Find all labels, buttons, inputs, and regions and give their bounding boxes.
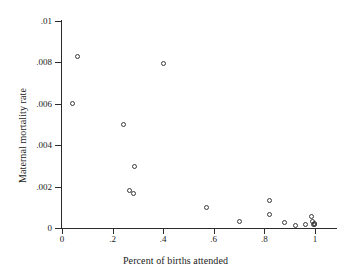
y-axis-title-wrap: Maternal mortality rate bbox=[8, 10, 22, 220]
x-axis-line bbox=[61, 228, 337, 229]
data-point bbox=[267, 198, 272, 203]
data-point bbox=[309, 214, 314, 219]
x-tick-label: .6 bbox=[199, 235, 229, 244]
y-tick bbox=[55, 21, 61, 22]
y-axis-title: Maternal mortality rate bbox=[17, 36, 28, 236]
y-tick-label: .01 bbox=[18, 17, 52, 26]
y-tick bbox=[55, 104, 61, 105]
y-tick bbox=[55, 228, 61, 229]
data-point bbox=[70, 101, 75, 106]
data-points-layer bbox=[62, 21, 325, 228]
data-point bbox=[267, 212, 272, 217]
x-tick-label: 0 bbox=[47, 235, 77, 244]
x-tick-label: .4 bbox=[148, 235, 178, 244]
data-point bbox=[132, 164, 137, 169]
data-point bbox=[161, 61, 166, 66]
y-tick bbox=[55, 145, 61, 146]
data-point bbox=[293, 223, 298, 228]
data-point bbox=[75, 54, 80, 59]
data-point bbox=[121, 122, 126, 127]
x-tick-label: 1 bbox=[300, 235, 330, 244]
y-tick bbox=[55, 62, 61, 63]
data-point bbox=[204, 205, 209, 210]
data-point bbox=[237, 219, 242, 224]
scan-artifact bbox=[307, 0, 337, 8]
x-axis-title: Percent of births attended bbox=[0, 255, 351, 266]
x-tick-label: .2 bbox=[98, 235, 128, 244]
x-tick-label: .8 bbox=[249, 235, 279, 244]
scatter-plot: 0.002.004.006.008.01 0.2.4.6.81 Maternal… bbox=[0, 0, 351, 279]
data-point bbox=[303, 222, 308, 227]
data-point bbox=[131, 191, 136, 196]
y-tick bbox=[55, 187, 61, 188]
data-point bbox=[282, 220, 287, 225]
